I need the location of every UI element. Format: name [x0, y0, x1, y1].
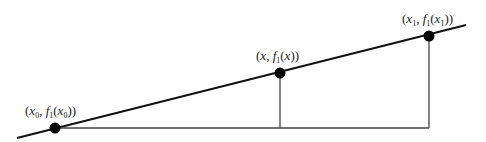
point-x0 — [50, 123, 61, 134]
interpolation-diagram: (x0, f1(x0)) (x, f1(x)) (x1, f1(x1)) — [0, 0, 486, 142]
interpolating-line — [17, 25, 466, 138]
label-point-x0: (x0, f1(x0)) — [25, 103, 76, 120]
point-x1 — [424, 31, 435, 42]
label-point-x: (x, f1(x)) — [256, 48, 299, 65]
label-point-x1: (x1, f1(x1)) — [402, 11, 453, 28]
point-x — [275, 68, 286, 79]
